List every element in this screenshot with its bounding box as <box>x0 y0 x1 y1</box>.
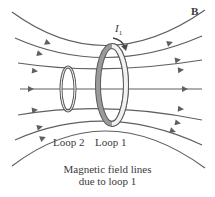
arrow-icon <box>166 39 174 47</box>
arrow-icon <box>178 106 185 113</box>
caption: Magnetic field lines due to loop 1 <box>0 163 215 187</box>
arrow-icon <box>178 67 185 74</box>
arrow-icon <box>36 50 43 57</box>
field-line-bottom-3 <box>18 109 202 120</box>
loop1-label: Loop 1 <box>95 136 126 148</box>
current-subscript: 1 <box>119 29 123 37</box>
arrow-icon <box>175 57 182 64</box>
arrow-icon <box>32 68 39 75</box>
arrow-icon <box>39 134 47 142</box>
arrow-icon <box>44 39 52 47</box>
current-label: I1 <box>115 22 122 37</box>
field-label-b: B <box>191 5 198 17</box>
caption-line-1: Magnetic field lines <box>0 163 215 175</box>
field-line-top-3 <box>18 60 202 69</box>
loop2-label: Loop 2 <box>53 136 84 148</box>
arrow-icon <box>174 119 181 126</box>
arrow-icon <box>182 86 188 92</box>
arrow-icon <box>28 86 34 92</box>
caption-line-2: due to loop 1 <box>0 175 215 187</box>
field-line-top-outer <box>12 10 205 46</box>
